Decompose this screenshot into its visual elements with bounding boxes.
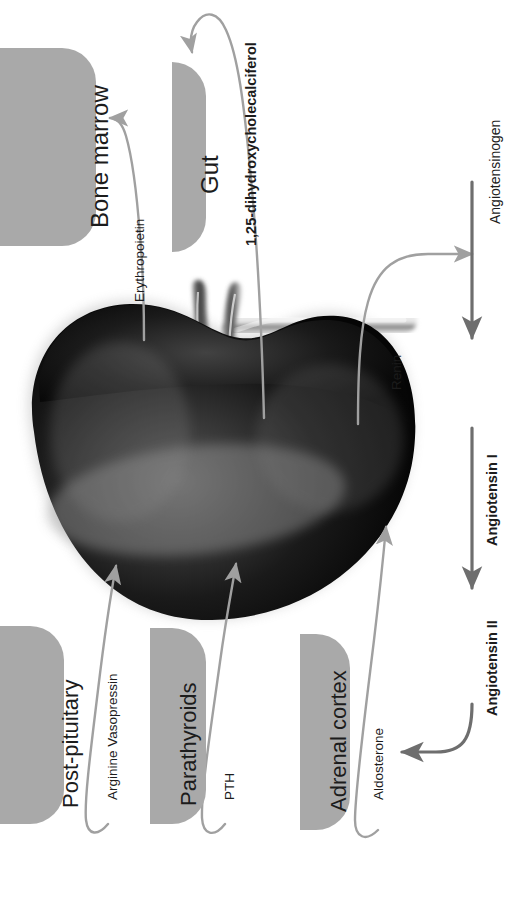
lead-renin bbox=[358, 254, 472, 424]
plate-bone-marrow[interactable] bbox=[0, 48, 96, 246]
label-bone-marrow: Bone marrow bbox=[86, 85, 114, 228]
label-aldosterone: Aldosterone bbox=[371, 728, 386, 800]
label-renin: Renin bbox=[389, 355, 404, 390]
label-angiotensinogen: Angiotensinogen bbox=[487, 120, 503, 224]
label-pth: PTH bbox=[222, 773, 237, 800]
label-arginine-vasopressin: Arginine Vasopressin bbox=[105, 673, 120, 800]
cascade-angiotensin2-to-adrenal bbox=[402, 704, 472, 752]
label-adrenal-cortex: Adrenal cortex bbox=[326, 670, 352, 812]
plate-post-pituitary[interactable] bbox=[0, 626, 64, 824]
label-parathyroids: Parathyroids bbox=[176, 682, 202, 806]
label-calcitriol: 1,25-dihydroxycholecalciferol bbox=[243, 42, 259, 246]
label-angiotensin-2: Angiotensin II bbox=[484, 620, 500, 716]
label-erythropoietin: Erythropoietin bbox=[132, 219, 147, 302]
diagram-canvas: Bone marrow Gut Post-pituitary Parathyro… bbox=[0, 0, 523, 904]
label-post-pituitary: Post-pituitary bbox=[58, 680, 84, 808]
label-gut: Gut bbox=[196, 155, 224, 194]
label-angiotensin-1: Angiotensin I bbox=[484, 454, 500, 546]
